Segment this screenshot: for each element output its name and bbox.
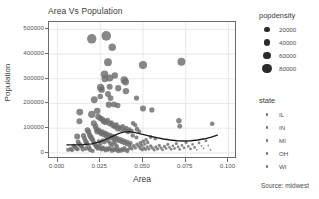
state-legend-dot-icon xyxy=(259,152,275,154)
size-legend-dot-icon xyxy=(259,52,275,60)
y-tick-label: 0 xyxy=(41,148,44,155)
y-tick-label: 100000 xyxy=(23,123,44,130)
data-point xyxy=(76,118,82,124)
data-point xyxy=(178,148,181,151)
data-point xyxy=(140,144,143,147)
x-tick-mark xyxy=(57,158,58,162)
state-legend-label: OH xyxy=(279,150,288,157)
size-legend-item[interactable]: 80000 xyxy=(259,62,296,75)
data-point xyxy=(107,84,113,90)
state-legend-dot-icon xyxy=(259,165,275,167)
data-point xyxy=(149,107,154,112)
y-tick-label: 300000 xyxy=(23,74,44,81)
data-points xyxy=(66,31,214,153)
data-point xyxy=(140,105,146,111)
page-title: Area Vs Population xyxy=(48,6,123,16)
state-legend: state ILINMIOHWI xyxy=(259,96,288,173)
state-legend-label: MI xyxy=(279,137,286,144)
x-tick-label: 0.000 xyxy=(42,162,72,169)
size-legend-title: popdensity xyxy=(259,11,296,20)
state-legend-dot-icon xyxy=(259,113,275,115)
data-point xyxy=(205,140,208,143)
x-tick-label: 0.025 xyxy=(84,162,114,169)
data-point xyxy=(74,134,80,140)
data-point xyxy=(156,147,159,150)
data-point xyxy=(106,102,112,108)
data-point xyxy=(76,109,83,116)
data-point xyxy=(112,72,118,78)
data-point xyxy=(207,145,209,147)
data-point xyxy=(172,145,175,148)
data-point xyxy=(153,148,156,151)
data-point xyxy=(146,141,149,144)
x-tick-label: 0.075 xyxy=(170,162,200,169)
y-axis-title: Population xyxy=(3,43,12,123)
data-point xyxy=(203,148,205,150)
y-tick-label: 500000 xyxy=(23,24,44,31)
data-point xyxy=(115,144,119,148)
data-point xyxy=(109,43,116,50)
state-legend-label: WI xyxy=(279,163,287,170)
state-legend-item-oh[interactable]: OH xyxy=(259,147,288,160)
data-point xyxy=(210,121,215,126)
source-caption: Source: midwest xyxy=(261,182,309,189)
data-point xyxy=(183,147,186,150)
data-point xyxy=(134,146,137,149)
state-legend-label: IL xyxy=(279,111,284,118)
data-point xyxy=(181,144,184,147)
data-point xyxy=(115,85,121,91)
size-legend-item[interactable]: 40000 xyxy=(259,36,296,49)
data-point xyxy=(187,145,190,148)
x-tick-mark xyxy=(227,158,228,162)
size-legend-dot-icon xyxy=(259,64,275,73)
data-point xyxy=(129,141,133,145)
size-legend-label: 40000 xyxy=(279,39,296,46)
size-legend-item[interactable]: 60000 xyxy=(259,49,296,62)
x-tick-label: 0.050 xyxy=(127,162,157,169)
data-point xyxy=(161,149,164,152)
data-point xyxy=(139,61,147,69)
data-point xyxy=(91,96,98,103)
data-point xyxy=(88,111,95,118)
data-point xyxy=(134,95,139,100)
data-point xyxy=(87,34,96,43)
data-point xyxy=(81,147,86,152)
data-point xyxy=(76,147,80,151)
data-point xyxy=(196,149,198,151)
size-legend-rows: 20000400006000080000 xyxy=(259,23,296,75)
size-legend-item[interactable]: 20000 xyxy=(259,23,296,36)
x-tick-label: 0.100 xyxy=(212,162,242,169)
plot-canvas xyxy=(49,22,236,158)
state-legend-item-in[interactable]: IN xyxy=(259,121,288,134)
state-legend-item-mi[interactable]: MI xyxy=(259,134,288,147)
state-legend-dot-icon xyxy=(259,139,275,141)
data-point xyxy=(70,148,74,152)
y-tick-label: 200000 xyxy=(23,98,44,105)
scatter-chart: Area Vs Population Population 0100000200… xyxy=(0,0,319,199)
data-point xyxy=(133,123,137,127)
x-axis-title: Area xyxy=(48,174,236,184)
data-point xyxy=(98,86,104,92)
data-point xyxy=(98,94,104,100)
state-legend-dot-icon xyxy=(259,126,275,128)
plot-panel xyxy=(48,21,236,158)
data-point xyxy=(191,143,194,146)
x-tick-mark xyxy=(99,158,100,162)
data-point xyxy=(123,88,129,94)
state-legend-label: IN xyxy=(279,124,285,131)
size-legend: popdensity 20000400006000080000 xyxy=(259,11,296,75)
state-legend-item-il[interactable]: IL xyxy=(259,108,288,121)
state-legend-item-wi[interactable]: WI xyxy=(259,160,288,173)
data-point xyxy=(175,142,178,145)
data-point xyxy=(115,103,121,109)
data-point xyxy=(90,149,94,153)
data-point xyxy=(108,95,114,101)
state-legend-rows: ILINMIOHWI xyxy=(259,108,288,173)
data-point xyxy=(122,79,129,86)
data-point xyxy=(177,124,182,129)
data-point xyxy=(104,58,112,66)
data-point xyxy=(131,133,135,137)
data-point xyxy=(170,148,173,151)
data-point xyxy=(173,147,176,150)
data-point xyxy=(177,146,180,149)
